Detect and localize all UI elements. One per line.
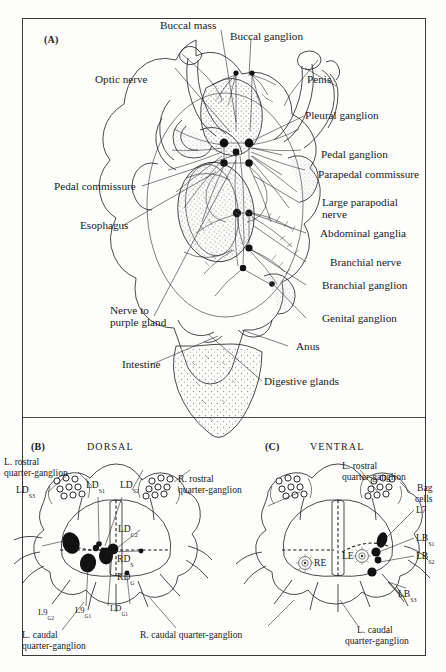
label-parapedal-commissure: Parapedal commissure [318, 169, 419, 181]
label-pedal-ganglion: Pedal ganglion [321, 149, 388, 161]
panel-c-left-bag-cells [270, 475, 311, 504]
label-c-left-rostral-line2: quarter-ganglion [342, 472, 406, 482]
cell-label-rd-g: RDG [117, 572, 135, 582]
cell-label-ld-g1: LDG1 [110, 604, 128, 613]
label-b-left-rostral: L. rostral [4, 457, 39, 467]
label-b-left-rostral-line2: quarter-ganglion [4, 468, 68, 478]
label-optic-nerve: Optic nerve [95, 74, 148, 86]
label-b-right-rostral: R. rostral [178, 474, 214, 484]
label-c-left-rostral: L. rostral [342, 461, 377, 471]
panel-c-re-cluster [296, 554, 314, 572]
cell-label-l9-g2: L9G2 [38, 608, 54, 617]
label-abdominal-ganglia: Abdominal ganglia [320, 228, 406, 240]
panel-c-le-cluster [353, 547, 371, 565]
cell-label-l7: L7 [416, 505, 427, 515]
cell-label-le: LE [342, 551, 354, 561]
label-b-right-caudal: R. caudal quarter-ganglion [140, 630, 242, 640]
label-b-left-caudal: L. caudal [22, 630, 58, 640]
label-c-left-caudal-line2: quarter-ganglion [345, 636, 409, 646]
label-pleural-ganglion: Pleural ganglion [305, 110, 379, 122]
label-large-parapodial-nerve: Large parapodial [322, 197, 398, 209]
panel-c-leader-lines [268, 470, 414, 626]
label-large-parapodial-nerve-line2: nerve [322, 209, 347, 221]
label-penis: Penis [307, 74, 331, 86]
panel-a-organs [132, 120, 318, 437]
label-c-bag-cells: Bag [417, 483, 432, 493]
panel-c-orientation: VENTRAL [310, 441, 364, 452]
figure-container: (A) Buccal mass Buccal ganglion Optic ne… [0, 0, 446, 672]
label-digestive-glands: Digestive glands [264, 376, 339, 388]
label-buccal-mass: Buccal mass [160, 20, 216, 32]
cell-label-ld-s2: LDS2 [120, 480, 139, 490]
cell-label-re: RE [314, 558, 326, 568]
panel-b-letter: (B) [31, 441, 45, 452]
label-nerve-to-purple-gland: Nerve to [110, 305, 149, 317]
label-b-right-rostral-line2: quarter-ganglion [178, 485, 242, 495]
label-intestine: Intestine [122, 359, 161, 371]
panel-a-letter: (A) [44, 34, 58, 45]
label-buccal-ganglion: Buccal ganglion [230, 31, 303, 43]
panel-b-right-rostral-cluster [138, 475, 179, 504]
panel-b-left-rostral-cluster [48, 475, 89, 504]
panel-c-letter: (C) [265, 441, 279, 452]
figure-artwork [0, 0, 446, 672]
label-esophagus: Esophagus [80, 220, 128, 232]
label-c-left-caudal: L. caudal [357, 625, 393, 635]
label-pedal-commissure: Pedal commissure [54, 181, 136, 193]
label-genital-ganglion: Genital ganglion [322, 313, 397, 325]
label-c-bag-cells-line2: cells [415, 494, 433, 504]
cell-label-rd-s: RDS [117, 554, 134, 564]
cell-label-ld-s3: LDS3 [16, 485, 35, 495]
label-anus: Anus [296, 341, 320, 353]
label-b-left-caudal-line2: quarter-ganglion [22, 641, 86, 651]
cell-label-lb-s1: LBS1 [416, 533, 435, 543]
cell-label-ld-s1: LDS1 [86, 480, 105, 490]
label-branchial-nerve: Branchial nerve [330, 257, 401, 269]
label-branchial-ganglion: Branchial ganglion [322, 280, 407, 292]
panel-b-orientation: DORSAL [87, 441, 134, 452]
cell-label-ld-c2: LDC2 [118, 524, 138, 534]
cell-label-l9-g1: L9G1 [75, 606, 91, 615]
cell-label-lb-s2: LBS2 [416, 551, 435, 561]
label-nerve-to-purple-gland-line2: purple gland [110, 317, 166, 329]
cell-label-lb-s3: LBS3 [398, 589, 417, 599]
